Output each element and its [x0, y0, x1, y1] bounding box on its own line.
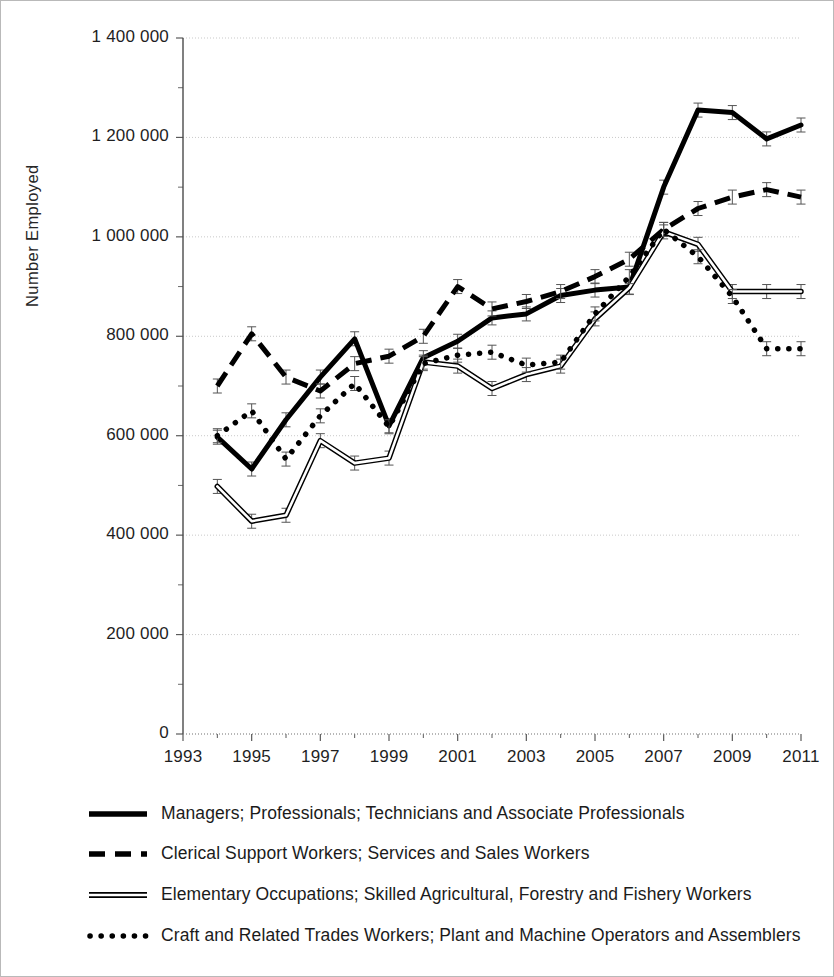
chart-figure: Number Employed 0200 000400 000600 00080… — [0, 0, 834, 977]
data-series — [213, 222, 806, 466]
legend-label: Clerical Support Workers; Services and S… — [161, 842, 590, 865]
legend-item[interactable]: Clerical Support Workers; Services and S… — [87, 842, 590, 865]
legend-item[interactable]: Elementary Occupations; Skilled Agricult… — [87, 883, 752, 906]
line-chart-svg — [1, 1, 834, 791]
data-series — [213, 183, 806, 398]
legend-label: Craft and Related Trades Workers; Plant … — [161, 924, 801, 947]
series-line-managers — [217, 110, 801, 469]
legend-item[interactable]: Craft and Related Trades Workers; Plant … — [87, 924, 801, 947]
legend-swatch-double-outline-icon — [87, 884, 149, 904]
legend-swatch-solid-thick-icon — [87, 803, 149, 823]
legend-swatch-dotted-icon — [87, 925, 149, 945]
legend-label: Managers; Professionals; Technicians and… — [161, 802, 685, 825]
legend-item[interactable]: Managers; Professionals; Technicians and… — [87, 802, 685, 825]
data-series — [213, 103, 806, 476]
chart-plot-region: Number Employed 0200 000400 000600 00080… — [1, 1, 834, 791]
legend-swatch-dashed-icon — [87, 843, 149, 863]
data-series — [213, 225, 806, 528]
legend-label: Elementary Occupations; Skilled Agricult… — [161, 883, 752, 906]
chart-legend: Managers; Professionals; Technicians and… — [1, 794, 834, 976]
